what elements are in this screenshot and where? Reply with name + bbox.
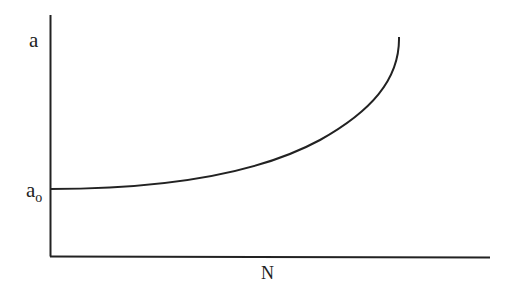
initial-value-label: ao bbox=[26, 178, 42, 205]
y-axis-label: a bbox=[29, 28, 39, 52]
growth-curve bbox=[50, 37, 399, 189]
crack-growth-diagram: a ao N bbox=[0, 0, 513, 295]
x-axis bbox=[50, 257, 490, 258]
initial-value-subscript: o bbox=[35, 190, 42, 205]
x-axis-label: N bbox=[261, 263, 274, 283]
